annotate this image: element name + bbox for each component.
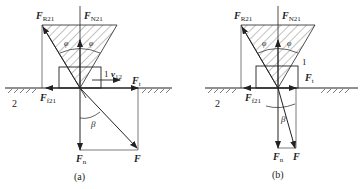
label-tangential-force: Ft bbox=[304, 72, 314, 85]
label-phi-right: φ bbox=[89, 39, 94, 48]
label-tangential-force: Ft bbox=[131, 75, 141, 88]
label-phi-left: φ bbox=[262, 39, 267, 48]
panel-b: FR21 FN21 φ φ 1 Ft 2 Ff21 β Fn F (b) bbox=[205, 6, 358, 181]
label-beta: β bbox=[280, 114, 286, 124]
label-body-1: 1 bbox=[104, 69, 109, 79]
label-friction-force: Ff21 bbox=[39, 92, 57, 105]
label-normal-component: Fn bbox=[272, 151, 284, 164]
label-beta: β bbox=[90, 119, 96, 129]
label-friction-force: Ff21 bbox=[244, 92, 262, 105]
beta-arc bbox=[80, 112, 100, 118]
label-body-2: 2 bbox=[12, 98, 17, 109]
label-applied-force: F bbox=[292, 151, 300, 162]
beta-arc bbox=[266, 104, 295, 108]
label-phi-left: φ bbox=[64, 39, 69, 48]
label-body-2: 2 bbox=[215, 98, 220, 109]
label-normal-force: FN21 bbox=[83, 10, 103, 23]
ground-hatch bbox=[8, 89, 170, 93]
label-phi-right: φ bbox=[287, 39, 292, 48]
caption-a: (a) bbox=[74, 171, 85, 183]
label-reaction-force: FR21 bbox=[233, 10, 253, 23]
caption-b: (b) bbox=[272, 169, 284, 181]
panel-a: FR21 FN21 φ φ 1 v12 Ft 2 Ff21 β Fn F (a) bbox=[5, 6, 172, 183]
label-body-1: 1 bbox=[302, 57, 307, 67]
label-normal-force: FN21 bbox=[281, 10, 301, 23]
friction-cone-diagram: FR21 FN21 φ φ 1 v12 Ft 2 Ff21 β Fn F (a) bbox=[0, 0, 360, 189]
label-reaction-force: FR21 bbox=[35, 10, 55, 23]
label-velocity: v12 bbox=[111, 69, 123, 81]
label-applied-force: F bbox=[133, 153, 141, 164]
label-normal-component: Fn bbox=[75, 153, 87, 166]
